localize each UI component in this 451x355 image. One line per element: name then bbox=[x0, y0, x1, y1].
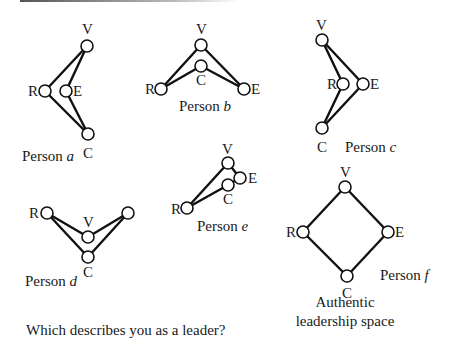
question-text: Which describes you as a leader? bbox=[26, 322, 226, 339]
node-c bbox=[82, 128, 94, 140]
edge-r-c bbox=[303, 232, 347, 276]
label-e: E bbox=[395, 224, 404, 240]
node-r bbox=[297, 226, 309, 238]
label-r: R bbox=[171, 201, 181, 217]
node-r bbox=[41, 207, 53, 219]
diagram-person-a: V R E C Person a bbox=[22, 21, 94, 164]
label-v: V bbox=[82, 21, 93, 37]
node-v bbox=[339, 181, 351, 193]
node-v bbox=[81, 40, 93, 52]
node-e bbox=[382, 226, 394, 238]
label-e: E bbox=[73, 83, 82, 99]
label-v: V bbox=[340, 164, 351, 180]
node-c bbox=[195, 60, 207, 72]
node-r bbox=[181, 202, 193, 214]
diagram-person-c: V R E C Person c bbox=[316, 17, 397, 155]
node-e bbox=[234, 172, 246, 184]
authentic-label-line1: Authentic bbox=[290, 293, 400, 312]
node-c bbox=[316, 122, 328, 134]
label-r: R bbox=[28, 83, 38, 99]
caption-person-d: Person d bbox=[25, 273, 78, 289]
caption-person-c: Person c bbox=[345, 139, 397, 155]
diagram-person-f: V R E C Person f bbox=[286, 164, 431, 301]
edge-v-e bbox=[345, 187, 388, 232]
diagram-person-d: R V C Person d bbox=[25, 205, 134, 289]
node-e bbox=[122, 207, 134, 219]
authentic-leadership-label: Authentic leadership space bbox=[290, 293, 400, 331]
label-v: V bbox=[222, 141, 233, 157]
label-v: V bbox=[316, 17, 327, 33]
caption-person-b: Person b bbox=[179, 98, 232, 114]
label-r: R bbox=[327, 76, 337, 92]
node-r bbox=[337, 78, 349, 90]
label-c: C bbox=[196, 72, 206, 88]
label-v: V bbox=[83, 214, 94, 230]
edge-r-c bbox=[187, 185, 228, 208]
diagram-person-b: V C R E Person b bbox=[145, 21, 260, 114]
node-r bbox=[155, 83, 167, 95]
node-c bbox=[82, 251, 94, 263]
label-c: C bbox=[83, 264, 93, 280]
label-v: V bbox=[196, 21, 207, 37]
node-e bbox=[60, 85, 72, 97]
node-e bbox=[357, 78, 369, 90]
node-c bbox=[222, 179, 234, 191]
label-r: R bbox=[145, 81, 155, 97]
label-r: R bbox=[286, 224, 296, 240]
caption-person-e: Person e bbox=[197, 218, 249, 234]
node-v bbox=[195, 39, 207, 51]
node-v bbox=[82, 231, 94, 243]
edge-c-r bbox=[161, 66, 201, 89]
label-c: C bbox=[317, 139, 327, 155]
caption-person-f: Person f bbox=[380, 267, 431, 283]
label-c: C bbox=[83, 145, 93, 161]
node-r bbox=[39, 85, 51, 97]
label-e: E bbox=[370, 76, 379, 92]
authentic-label-line2: leadership space bbox=[290, 312, 400, 331]
label-e: E bbox=[251, 81, 260, 97]
node-e bbox=[238, 83, 250, 95]
edge-v-r bbox=[303, 187, 345, 232]
diagram-person-e: V E C R Person e bbox=[171, 141, 257, 234]
edge-c-e bbox=[201, 66, 244, 89]
node-v bbox=[222, 157, 234, 169]
node-c bbox=[341, 270, 353, 282]
label-c: C bbox=[223, 191, 233, 207]
label-r: R bbox=[29, 205, 39, 221]
label-e: E bbox=[248, 170, 257, 186]
caption-person-a: Person a bbox=[22, 148, 74, 164]
node-v bbox=[316, 34, 328, 46]
